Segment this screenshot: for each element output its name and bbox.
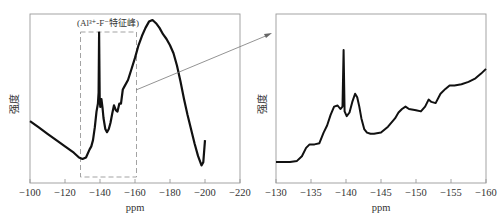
- x-tick-label: −140: [335, 187, 357, 198]
- figure: −100−120−140−160−180−200−220 (Al³⁺-F⁻特征峰…: [0, 0, 504, 217]
- left-chart: −100−120−140−160−180−200−220 (Al³⁺-F⁻特征峰…: [8, 14, 251, 213]
- left-x-tick-labels: −100−120−140−160−180−200−220: [19, 187, 251, 198]
- right-x-axis-title: ppm: [372, 202, 391, 213]
- x-tick-label: −145: [370, 187, 392, 198]
- x-tick-label: −100: [19, 187, 41, 198]
- right-plot-frame: [276, 14, 486, 183]
- x-tick-label: −140: [89, 187, 111, 198]
- x-tick-label: −135: [300, 187, 322, 198]
- left-spectrum-trace: [30, 20, 205, 165]
- left-plot-frame: [30, 14, 240, 183]
- x-tick-label: −200: [194, 187, 216, 198]
- x-tick-label: −130: [265, 187, 287, 198]
- x-tick-label: −155: [440, 187, 462, 198]
- x-tick-label: −160: [124, 187, 146, 198]
- right-spectrum-trace: [276, 50, 486, 162]
- al-f-dashed-box: [81, 32, 137, 177]
- left-x-ticks: [30, 179, 240, 183]
- x-tick-label: −120: [54, 187, 76, 198]
- x-tick-label: −220: [229, 187, 251, 198]
- x-tick-label: −150: [405, 187, 427, 198]
- left-x-axis-title: ppm: [126, 202, 145, 213]
- x-tick-label: −160: [475, 187, 497, 198]
- arrowhead-icon: [264, 33, 272, 38]
- right-chart: −130−135−140−145−150−155−160 ppm 强度: [256, 14, 497, 213]
- right-x-tick-labels: −130−135−140−145−150−155−160: [265, 187, 497, 198]
- right-y-axis-title: 强度: [256, 94, 268, 114]
- x-tick-label: −180: [159, 187, 181, 198]
- right-x-ticks: [276, 179, 486, 183]
- zoom-arrow: [136, 33, 272, 90]
- al-f-annotation-label: (Al³⁺-F⁻特征峰): [77, 17, 139, 28]
- left-y-axis-title: 强度: [8, 94, 20, 114]
